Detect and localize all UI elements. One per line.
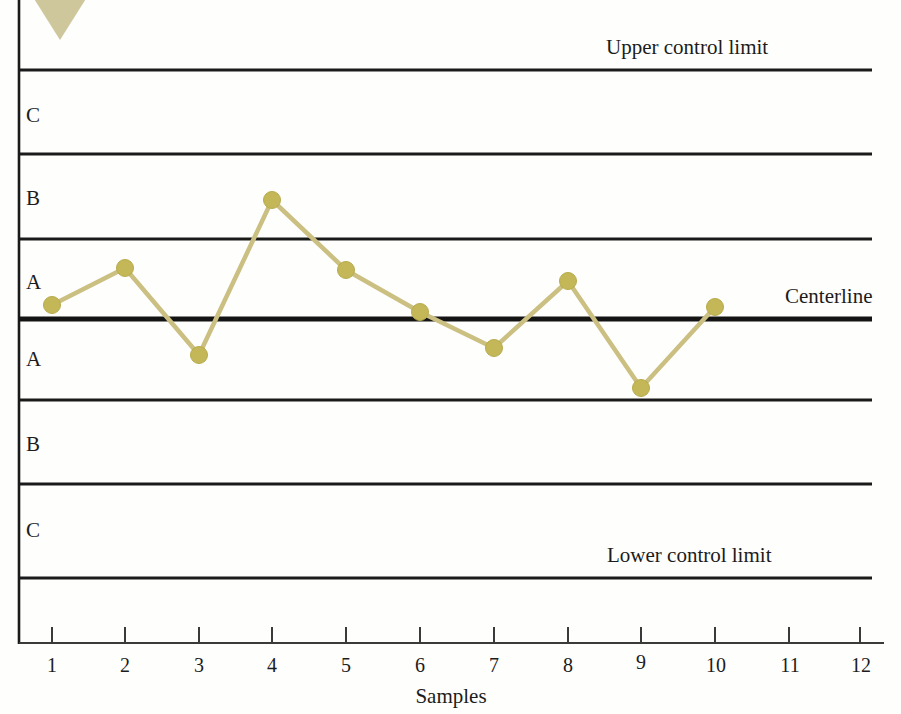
x-tick-label-11: 11: [780, 654, 799, 677]
data-point-10: [707, 299, 724, 316]
x-tick-label-5: 5: [341, 654, 351, 677]
x-tick-label-3: 3: [194, 654, 204, 677]
x-tick-label-2: 2: [120, 654, 130, 677]
x-tick-label-6: 6: [415, 654, 425, 677]
x-tick-label-4: 4: [267, 654, 277, 677]
centerline-label: Centerline: [785, 284, 872, 309]
zone-label-b-upper: B: [26, 186, 40, 211]
zone-label-b-lower: B: [26, 432, 40, 457]
control-chart-canvas: [0, 0, 901, 714]
x-axis-ticks: [52, 627, 860, 643]
data-point-6: [412, 304, 429, 321]
upper-control-limit-label: Upper control limit: [606, 35, 768, 60]
triangle-ornament-icon: [26, 0, 94, 40]
data-point-1: [44, 297, 61, 314]
data-point-2: [117, 260, 134, 277]
zone-label-a-upper: A: [26, 270, 41, 295]
data-point-3: [191, 347, 208, 364]
data-point-4: [264, 192, 281, 209]
data-point-8: [560, 273, 577, 290]
x-tick-label-9: 9: [636, 651, 646, 674]
data-point-5: [338, 262, 355, 279]
x-axis-title: Samples: [415, 684, 486, 709]
x-tick-label-1: 1: [47, 654, 57, 677]
x-tick-label-12: 12: [851, 654, 871, 677]
x-tick-label-7: 7: [489, 654, 499, 677]
x-tick-label-10: 10: [706, 654, 726, 677]
zone-label-a-lower: A: [26, 347, 41, 372]
control-chart-figure: C B A A B C Upper control limit Centerli…: [0, 0, 901, 714]
x-tick-label-8: 8: [563, 654, 573, 677]
data-point-7: [486, 340, 503, 357]
data-point-9: [633, 380, 650, 397]
zone-label-c-lower: C: [26, 518, 40, 543]
lower-control-limit-label: Lower control limit: [607, 543, 771, 568]
series-line-sample-measurements: [52, 200, 715, 388]
zone-label-c-upper: C: [26, 103, 40, 128]
